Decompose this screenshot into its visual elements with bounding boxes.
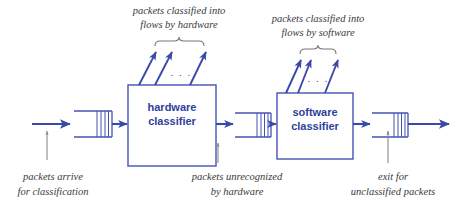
packet-classification-diagram: hardware classifier . . . packets classi…: [0, 0, 457, 206]
hardware-classifier-label-line2: classifier: [148, 115, 196, 127]
hardware-flow-ellipsis: . . .: [170, 66, 191, 78]
hardware-flow-arrow-1: [139, 52, 156, 85]
hardware-classifier-label-line1: hardware: [148, 101, 197, 113]
software-flow-arrows: . . .: [286, 60, 338, 93]
hardware-callout-line1: packets classified into: [132, 5, 226, 16]
diagram-canvas: hardware classifier . . . packets classi…: [0, 0, 457, 206]
middle-queue: [235, 113, 271, 137]
input-queue: [74, 111, 112, 137]
middle-queue-outline: [235, 113, 271, 137]
hardware-brace: [155, 37, 204, 46]
software-classifier-label-line2: classifier: [291, 120, 339, 132]
exit-unclassified-caption-line1: exit for: [378, 171, 409, 182]
software-brace-path: [300, 45, 336, 54]
exit-queue: [372, 113, 408, 137]
hardware-brace-path: [155, 37, 204, 46]
hardware-flow-arrow-3: [190, 52, 206, 85]
software-flow-arrow-1: [286, 60, 301, 93]
packets-unrecognized-caption-line1: packets unrecognized: [191, 171, 283, 182]
packets-arrive-caption-line2: for classification: [18, 186, 89, 197]
software-brace: [300, 45, 336, 54]
exit-queue-outline: [372, 113, 408, 137]
packets-unrecognized-caption-line2: by hardware: [211, 186, 264, 197]
exit-unclassified-caption-line2: unclassified packets: [351, 186, 435, 197]
hardware-callout-line2: flows by hardware: [140, 19, 218, 30]
packets-arrive-caption-line1: packets arrive: [22, 171, 83, 182]
software-classifier-label-line1: software: [292, 106, 337, 118]
software-flow-ellipsis: . . .: [307, 72, 328, 84]
software-callout-line1: packets classified into: [271, 13, 365, 24]
hardware-flow-arrows: . . .: [139, 52, 206, 85]
input-queue-outline: [74, 111, 112, 137]
software-callout-line2: flows by software: [281, 27, 354, 38]
